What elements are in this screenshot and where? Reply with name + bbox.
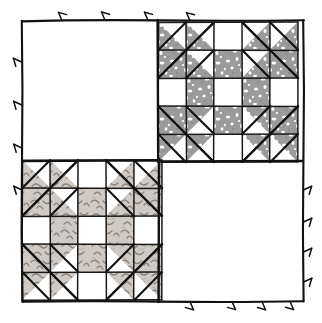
- divider-vertical: [158, 20, 159, 302]
- quilt-drawing-canvas: [0, 0, 322, 323]
- chain-patch-top-dark: [214, 50, 242, 78]
- frame-left: [22, 21, 23, 302]
- quilt-diagram: [0, 0, 322, 323]
- chain-patch-right-light: [106, 216, 134, 244]
- chain-patch-right-dark: [242, 78, 270, 106]
- center-patch-dark: [214, 78, 242, 106]
- divider-horizontal: [22, 160, 303, 161]
- chain-patch-left-dark: [186, 78, 214, 106]
- frame-bottom: [22, 301, 303, 302]
- chain-patch-top-light: [78, 188, 106, 216]
- chain-patch-bottom-light: [78, 244, 106, 272]
- chain-patch-left-light: [50, 216, 78, 244]
- quilt-block-top-right: [158, 22, 298, 162]
- chain-patch-bottom-dark: [214, 106, 242, 134]
- frame-top: [22, 20, 304, 21]
- center-patch-light: [78, 216, 106, 244]
- frame-right: [303, 20, 304, 301]
- quilt-block-bottom-left: [22, 160, 162, 300]
